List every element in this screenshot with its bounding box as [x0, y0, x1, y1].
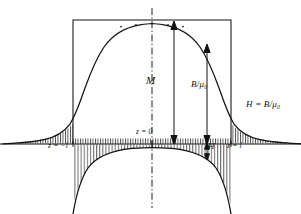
flux-density-arrow: [204, 44, 210, 144]
label-flux-density: B/μ₀: [191, 80, 207, 89]
label-magnetization: M: [146, 75, 155, 86]
magnetization-arrow: [171, 21, 177, 144]
label-field-inside: H: [208, 142, 215, 151]
label-z-zero: z = 0: [136, 128, 152, 136]
label-field-outside: H = B/μ₀: [246, 100, 280, 109]
label-z-negative-l: z = −l: [48, 142, 68, 150]
label-z-positive-l: z = l: [227, 142, 242, 150]
magnetization-field-diagram: M B/μ₀ H = B/μ₀ H z = −l z = 0 z = l: [0, 0, 301, 214]
